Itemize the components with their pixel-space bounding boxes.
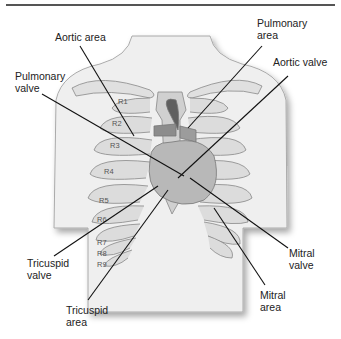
label-mitral-area: Mitral area: [260, 289, 286, 313]
label-tricuspid-valve: Tricuspid valve: [27, 257, 69, 281]
label-pulmonary-area: Pulmonary area: [257, 17, 307, 41]
rib-label-r5: R5: [99, 196, 109, 205]
label-aortic-valve: Aortic valve: [273, 56, 327, 68]
label-tricuspid-area: Tricuspid area: [66, 304, 108, 328]
label-mitral-valve: Mitral valve: [289, 247, 315, 271]
rib-label-r9: R9: [97, 260, 107, 269]
rib-label-r7: R7: [97, 238, 107, 247]
rib-label-r2: R2: [112, 119, 122, 128]
label-pulmonary-valve: Pulmonary valve: [15, 70, 65, 94]
thorax-diagram: R1 R2 R3 R4 R5 R6 R7 R8 R9: [0, 0, 341, 339]
rib-label-r8: R8: [97, 249, 107, 258]
rib-label-r3: R3: [110, 141, 120, 150]
rib-label-r1: R1: [118, 97, 128, 106]
rib-label-r6: R6: [97, 215, 107, 224]
label-aortic-area: Aortic area: [55, 31, 106, 43]
rib-label-r4: R4: [104, 167, 114, 176]
